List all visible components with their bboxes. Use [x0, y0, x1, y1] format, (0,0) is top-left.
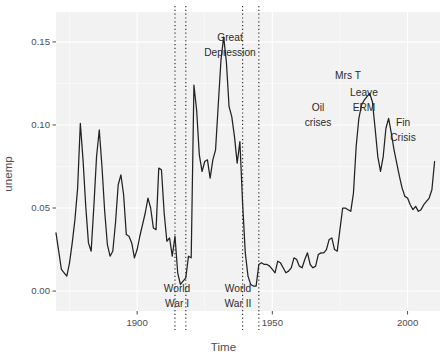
y-axis-title: unemp [2, 144, 14, 204]
annotation-line: ERM [350, 101, 378, 116]
x-axis-title: Time [0, 341, 447, 353]
y-tick-label: 0.00 [10, 285, 50, 296]
annotation-fin-crisis: FinCrisis [390, 116, 415, 145]
annotation-line: War II [225, 297, 252, 312]
annotation-line: Great [204, 31, 256, 46]
annotation-line: War I [164, 297, 190, 312]
annotation-mrs-t: Mrs T [335, 69, 361, 84]
annotation-line: Oil [305, 101, 332, 116]
annotation-world-war-one: WorldWar I [164, 282, 190, 311]
annotation-world-war-two: WorldWar II [225, 282, 252, 311]
annotation-line: World [164, 282, 190, 297]
annotation-line: Fin [390, 116, 415, 131]
annotation-line: Leave [350, 86, 378, 101]
annotation-line: Crisis [390, 131, 415, 146]
unemployment-chart: unemp Time 0.000.050.100.15190019502000 … [0, 0, 447, 362]
annotation-line: World [225, 282, 252, 297]
annotation-line: crises [305, 116, 332, 131]
annotation-line: Mrs T [335, 69, 361, 84]
annotation-leave-erm: LeaveERM [350, 86, 378, 115]
y-tick-label: 0.05 [10, 202, 50, 213]
y-tick-label: 0.10 [10, 119, 50, 130]
annotation-oil-crises: Oilcrises [305, 101, 332, 130]
x-tick-label: 1900 [112, 317, 162, 328]
x-tick-label: 1950 [247, 317, 297, 328]
y-tick-label: 0.15 [10, 36, 50, 47]
x-tick-label: 2000 [383, 317, 433, 328]
annotation-great-depression: GreatDepression [204, 31, 256, 60]
annotation-line: Depression [204, 46, 256, 61]
